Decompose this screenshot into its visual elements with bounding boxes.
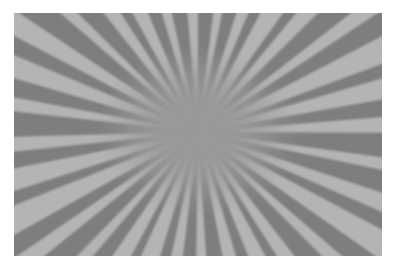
sunburst-rays-svg [14,13,382,256]
sunburst-image [14,13,382,256]
sunburst-core-blur [96,46,300,218]
screenshot-canvas [0,0,396,270]
